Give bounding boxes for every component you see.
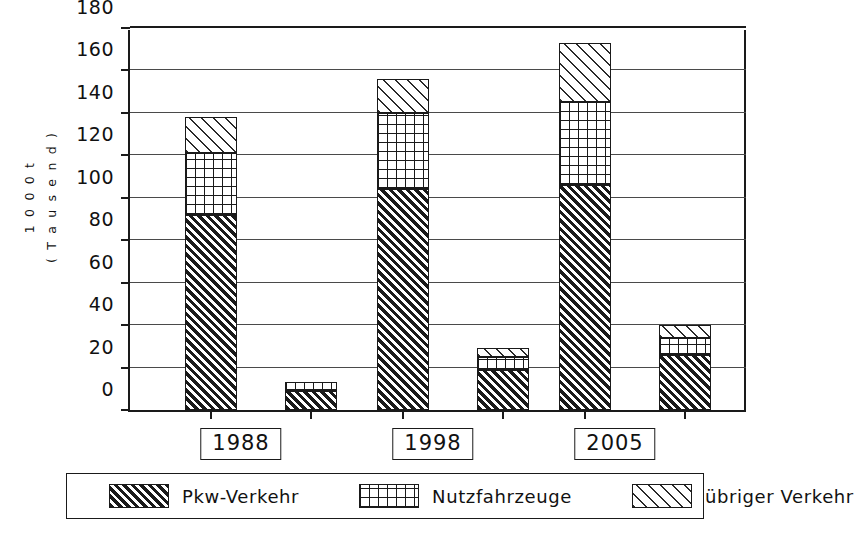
y-tick-label-140: 140: [76, 81, 114, 103]
bar-segment-1998-bar-b-pkw-verkehr: [477, 370, 529, 410]
gridline-160: [130, 69, 746, 70]
x-tick-1998-bar-a: [402, 410, 404, 419]
legend-label: Nutzfahrzeuge: [432, 486, 572, 507]
bar-1988-bar-b: [285, 382, 337, 410]
y-tick-label-0: 0: [101, 378, 114, 400]
legend-label: Pkw-Verkehr: [182, 486, 299, 507]
x-tick-1988-bar-b: [310, 410, 312, 419]
bar-segment-1998-bar-b--briger-verkehr: [477, 348, 529, 356]
x-axis-label-2005: 2005: [574, 428, 655, 460]
bar-segment-1988-bar-b-nutzfahrzeuge: [285, 382, 337, 390]
legend-swatch-icon: [109, 484, 169, 508]
x-tick-2005-bar-a: [584, 410, 586, 419]
legend-label: übriger Verkehr: [705, 486, 854, 507]
bar-segment-1988-bar-a-nutzfahrzeuge: [185, 153, 237, 215]
bar-segment-2005-bar-a-pkw-verkehr: [559, 185, 611, 410]
x-axis-label-1998: 1998: [392, 428, 473, 460]
x-tick-1998-bar-b: [502, 410, 504, 419]
bar-segment-2005-bar-a--briger-verkehr: [559, 43, 611, 102]
y-tick-0: [121, 409, 130, 411]
y-tick-160: [121, 69, 130, 71]
y-tick-label-180: 180: [76, 0, 114, 18]
bar-2005-bar-a: [559, 43, 611, 410]
x-axis-label-1988: 1988: [200, 428, 281, 460]
bar-segment-1988-bar-a-pkw-verkehr: [185, 215, 237, 410]
bar-1988-bar-a: [185, 117, 237, 410]
gridline-140: [130, 112, 746, 113]
y-axis-title: 1 0 0 0 t ( T a u s e n d ): [19, 112, 63, 282]
bar-segment-1988-bar-a--briger-verkehr: [185, 117, 237, 153]
bar-1998-bar-b: [477, 348, 529, 410]
bar-2005-bar-b: [659, 325, 711, 410]
bar-1998-bar-a: [377, 79, 429, 410]
y-tick-label-40: 40: [89, 293, 114, 315]
bar-segment-1998-bar-a--briger-verkehr: [377, 79, 429, 113]
y-tick-120: [121, 154, 130, 156]
y-tick-label-100: 100: [76, 166, 114, 188]
bar-segment-2005-bar-a-nutzfahrzeuge: [559, 102, 611, 185]
bar-segment-1998-bar-a-nutzfahrzeuge: [377, 113, 429, 189]
legend-item--briger-verkehr[interactable]: übriger Verkehr: [632, 474, 854, 518]
legend-item-pkw-verkehr[interactable]: Pkw-Verkehr: [109, 474, 299, 518]
bar-segment-2005-bar-b--briger-verkehr: [659, 325, 711, 338]
legend-item-nutzfahrzeuge[interactable]: Nutzfahrzeuge: [359, 474, 572, 518]
legend-swatch-icon: [632, 484, 692, 508]
x-tick-2005-bar-b: [684, 410, 686, 419]
y-tick-60: [121, 282, 130, 284]
y-tick-40: [121, 324, 130, 326]
gridline-180: [130, 26, 746, 28]
legend: Pkw-VerkehrNutzfahrzeugeübriger Verkehr: [66, 473, 704, 519]
y-axis-title-line-2: ( T a u s e n d ): [41, 112, 63, 282]
y-tick-label-20: 20: [89, 336, 114, 358]
y-tick-100: [121, 197, 130, 199]
bar-segment-1988-bar-b-pkw-verkehr: [285, 391, 337, 410]
bar-segment-2005-bar-b-pkw-verkehr: [659, 355, 711, 410]
plot-area: 020406080100120140160180: [128, 30, 746, 412]
legend-swatch-icon: [359, 484, 419, 508]
bar-segment-2005-bar-b-nutzfahrzeuge: [659, 338, 711, 355]
x-tick-1988-bar-a: [210, 410, 212, 419]
y-tick-80: [121, 239, 130, 241]
y-tick-label-120: 120: [76, 123, 114, 145]
y-tick-140: [121, 112, 130, 114]
y-tick-label-60: 60: [89, 251, 114, 273]
plot-right-border: [744, 30, 746, 410]
y-tick-label-160: 160: [76, 38, 114, 60]
bar-segment-1998-bar-a-pkw-verkehr: [377, 189, 429, 410]
y-axis-title-line-1: 1 0 0 0 t: [22, 161, 37, 233]
y-tick-180: [121, 27, 130, 29]
bar-segment-1998-bar-b-nutzfahrzeuge: [477, 357, 529, 370]
y-tick-20: [121, 367, 130, 369]
y-tick-label-80: 80: [89, 208, 114, 230]
